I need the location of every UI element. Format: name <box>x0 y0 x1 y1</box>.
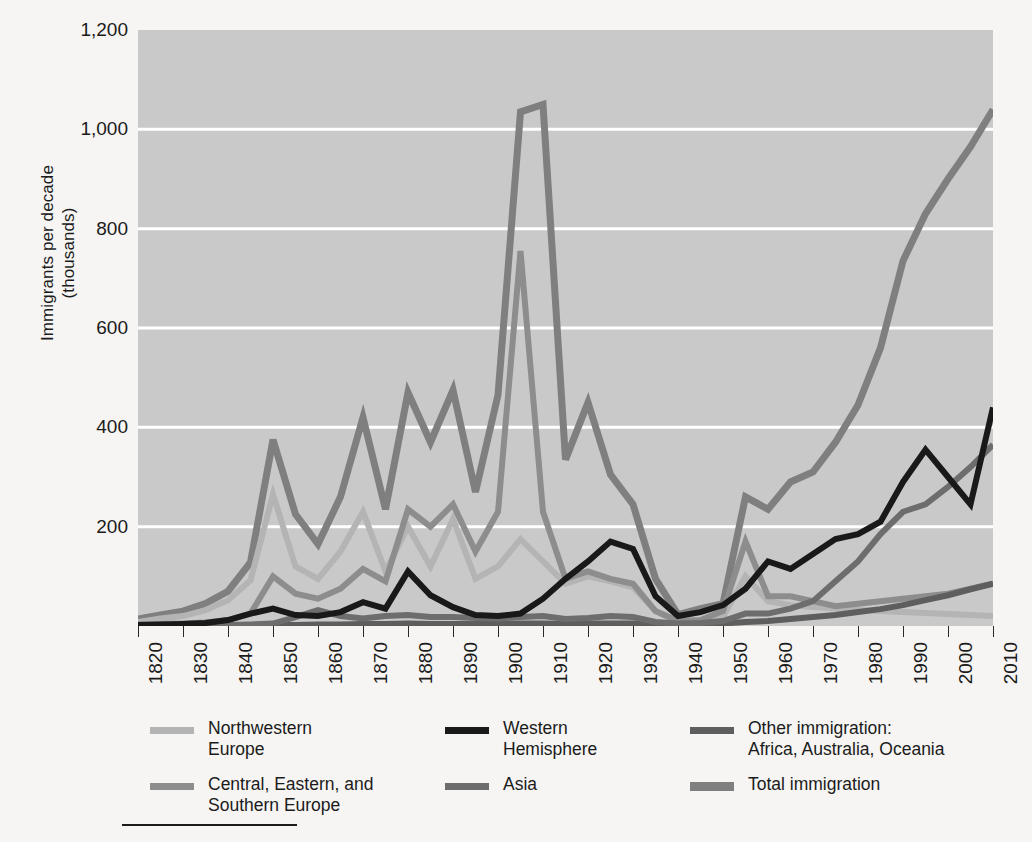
legend-label-northwestern_europe: Northwestern Europe <box>208 718 312 760</box>
x-axis-tickmark-1900 <box>498 626 499 637</box>
x-axis-tickmark-1890 <box>453 626 454 637</box>
legend-column-1: Northwestern EuropeCentral, Eastern, and… <box>150 718 450 830</box>
legend-swatch-asia <box>445 783 489 790</box>
x-axis-tickmark-1990 <box>903 626 904 637</box>
x-axis-tick-1980: 1980 <box>866 642 885 710</box>
legend-label-asia: Asia <box>503 774 537 795</box>
x-axis-tick-1890: 1890 <box>461 642 480 710</box>
x-axis-tickmark-1850 <box>273 626 274 637</box>
x-axis-tick-1900: 1900 <box>506 642 525 710</box>
x-axis-tick-1970: 1970 <box>821 642 840 710</box>
legend-item-northwestern_europe[interactable]: Northwestern Europe <box>150 718 450 760</box>
x-axis-tickmark-2000 <box>948 626 949 637</box>
y-axis-tick-1200: 1,200 <box>48 20 128 39</box>
legend-swatch-northwestern_europe <box>150 727 194 734</box>
legend-swatch-total_immigration <box>690 782 734 791</box>
x-axis-tickmark-1870 <box>363 626 364 637</box>
chart-legend: Northwestern EuropeCentral, Eastern, and… <box>150 718 1020 818</box>
x-axis-tickmark-2010 <box>993 626 994 637</box>
x-axis-tick-1870: 1870 <box>371 642 390 710</box>
x-axis-tick-1840: 1840 <box>236 642 255 710</box>
x-axis-tickmark-1950 <box>723 626 724 637</box>
series-line-total-immigration <box>138 105 993 620</box>
x-axis-tickmark-1940 <box>678 626 679 637</box>
x-axis-tickmark-1930 <box>633 626 634 637</box>
x-axis-tickmark-1910 <box>543 626 544 637</box>
x-axis-tick-1860: 1860 <box>326 642 345 710</box>
x-axis: 1820183018401850186018701880189019001910… <box>138 626 993 726</box>
y-axis-tick-200: 200 <box>48 517 128 536</box>
plot-area <box>138 30 993 626</box>
x-axis-tick-2010: 2010 <box>1001 642 1020 710</box>
x-axis-tick-1940: 1940 <box>686 642 705 710</box>
x-axis-tick-1990: 1990 <box>911 642 930 710</box>
x-axis-tick-2000: 2000 <box>956 642 975 710</box>
x-axis-tick-1920: 1920 <box>596 642 615 710</box>
y-axis-tick-1000: 1,000 <box>48 119 128 138</box>
legend-swatch-western_hemisphere <box>445 727 489 734</box>
x-axis-tick-1830: 1830 <box>191 642 210 710</box>
x-axis-tick-1930: 1930 <box>641 642 660 710</box>
legend-swatch-other_immigration <box>690 727 734 734</box>
legend-column-2: Western HemisphereAsia <box>445 718 695 809</box>
x-axis-tick-1910: 1910 <box>551 642 570 710</box>
x-axis-tickmark-1840 <box>228 626 229 637</box>
x-axis-tick-1850: 1850 <box>281 642 300 710</box>
x-axis-tickmark-1830 <box>183 626 184 637</box>
x-axis-tickmark-1970 <box>813 626 814 637</box>
footer-rule <box>122 824 297 826</box>
x-axis-tick-1950: 1950 <box>731 642 750 710</box>
y-axis-tick-800: 800 <box>48 219 128 238</box>
x-axis-tickmark-1820 <box>138 626 139 637</box>
legend-item-other_immigration[interactable]: Other immigration: Africa, Australia, Oc… <box>690 718 1020 760</box>
legend-item-central_eastern_southern_europe[interactable]: Central, Eastern, and Southern Europe <box>150 774 450 816</box>
legend-item-western_hemisphere[interactable]: Western Hemisphere <box>445 718 695 760</box>
y-axis-tick-labels: 1,2001,000800600400200 <box>46 0 128 660</box>
immigration-line-chart-figure: Immigrants per decade (thousands) 1,2001… <box>0 0 1032 842</box>
chart-svg <box>138 30 993 626</box>
x-axis-tickmark-1980 <box>858 626 859 637</box>
legend-label-western_hemisphere: Western Hemisphere <box>503 718 597 760</box>
y-axis-tick-600: 600 <box>48 318 128 337</box>
x-axis-tick-1820: 1820 <box>146 642 165 710</box>
series-lines <box>138 105 993 626</box>
x-axis-tickmark-1920 <box>588 626 589 637</box>
x-axis-tickmark-1960 <box>768 626 769 637</box>
y-axis-tick-400: 400 <box>48 417 128 436</box>
legend-label-other_immigration: Other immigration: Africa, Australia, Oc… <box>748 718 944 760</box>
legend-label-central_eastern_southern_europe: Central, Eastern, and Southern Europe <box>208 774 373 816</box>
legend-label-total_immigration: Total immigration <box>748 774 880 795</box>
x-axis-tick-1880: 1880 <box>416 642 435 710</box>
legend-column-3: Other immigration: Africa, Australia, Oc… <box>690 718 1020 809</box>
x-axis-tickmark-1880 <box>408 626 409 637</box>
x-axis-tick-1960: 1960 <box>776 642 795 710</box>
legend-item-total_immigration[interactable]: Total immigration <box>690 774 1020 795</box>
x-axis-tickmark-1860 <box>318 626 319 637</box>
legend-item-asia[interactable]: Asia <box>445 774 695 795</box>
legend-swatch-central_eastern_southern_europe <box>150 783 194 790</box>
